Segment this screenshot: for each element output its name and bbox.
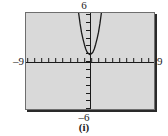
plot-area [26,13,154,109]
parabola-curve [26,13,154,109]
x-min-label: –9 [2,56,24,67]
x-max-label: 9 [157,56,168,67]
figure-caption: (i) [0,122,168,133]
figure-root: 6 –6 –9 9 (i) [0,0,168,136]
y-max-label: 6 [0,0,168,11]
graphing-calculator-screen [25,12,155,110]
